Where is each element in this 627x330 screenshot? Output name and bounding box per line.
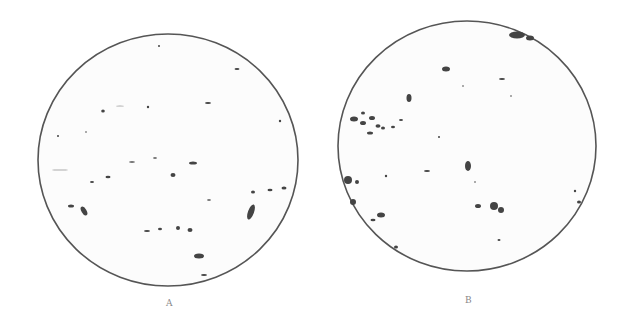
panel-label-b: B	[465, 295, 472, 305]
micrograph-figure: A B	[0, 0, 627, 330]
micrograph-drawing	[0, 0, 627, 330]
panel-label-a: A	[166, 298, 173, 308]
panel-b-field	[338, 21, 596, 271]
panel-a-field	[38, 34, 298, 286]
